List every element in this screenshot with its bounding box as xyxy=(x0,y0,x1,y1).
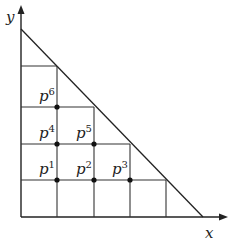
point-p1 xyxy=(54,177,59,182)
triangle-grid-diagram: y x p1p2p3p4p5p6 xyxy=(0,0,235,244)
point-label-p6: p6 xyxy=(39,86,55,105)
point-p4 xyxy=(54,141,59,146)
axes xyxy=(21,10,222,217)
y-axis-label: y xyxy=(5,8,15,26)
y-axis-arrow-icon xyxy=(18,5,25,14)
point-p6 xyxy=(54,104,59,109)
point-p3 xyxy=(127,177,132,182)
lattice-points: p1p2p3p4p5p6 xyxy=(39,86,133,183)
x-axis-arrow-icon xyxy=(219,214,228,221)
point-label-p4: p4 xyxy=(39,123,55,142)
x-axis-label: x xyxy=(205,224,214,242)
point-p2 xyxy=(91,177,96,182)
point-label-p5: p5 xyxy=(76,123,92,142)
point-label-p1: p1 xyxy=(39,159,55,178)
point-label-p2: p2 xyxy=(76,159,92,178)
point-p5 xyxy=(91,141,96,146)
point-label-p3: p3 xyxy=(112,159,128,178)
